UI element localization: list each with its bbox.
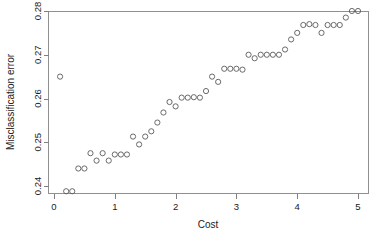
- data-point: [307, 22, 312, 27]
- x-axis-ticks: 012345: [51, 194, 360, 213]
- data-point: [209, 74, 214, 79]
- scatter-plot-figure: 0.240.250.260.270.28 012345 Cost Misclas…: [0, 0, 380, 239]
- y-tick-label: 0.28: [32, 2, 43, 21]
- data-point: [252, 56, 257, 61]
- data-point: [203, 88, 208, 93]
- data-point: [173, 104, 178, 109]
- data-point: [282, 47, 287, 52]
- data-point: [106, 158, 111, 163]
- data-point: [289, 37, 294, 42]
- x-tick-label: 3: [234, 201, 239, 212]
- data-point: [76, 166, 81, 171]
- y-axis-title: Misclassification error: [5, 53, 16, 150]
- data-point: [270, 52, 275, 57]
- data-point: [246, 52, 251, 57]
- data-point: [118, 152, 123, 157]
- data-point: [343, 15, 348, 20]
- plot-frame: [49, 12, 369, 194]
- y-tick-label: 0.24: [32, 177, 43, 196]
- data-point: [197, 95, 202, 100]
- data-point: [319, 30, 324, 35]
- x-tick-label: 1: [112, 201, 117, 212]
- data-points-layer: [57, 8, 360, 193]
- data-point: [331, 22, 336, 27]
- y-tick-label: 0.25: [32, 133, 43, 152]
- data-point: [264, 52, 269, 57]
- y-tick-label: 0.27: [32, 46, 43, 65]
- data-point: [185, 95, 190, 100]
- data-point: [100, 151, 105, 156]
- data-point: [112, 152, 117, 157]
- data-point: [216, 79, 221, 84]
- data-point: [155, 120, 160, 125]
- data-point: [295, 30, 300, 35]
- data-point: [313, 22, 318, 27]
- data-point: [234, 66, 239, 71]
- data-point: [161, 110, 166, 115]
- data-point: [191, 95, 196, 100]
- data-point: [143, 134, 148, 139]
- data-point: [325, 22, 330, 27]
- data-point: [137, 142, 142, 147]
- data-point: [130, 134, 135, 139]
- data-point: [301, 22, 306, 27]
- data-point: [222, 66, 227, 71]
- data-point: [57, 74, 62, 79]
- data-point: [276, 52, 281, 57]
- data-point: [82, 166, 87, 171]
- plot-canvas: 0.240.250.260.270.28 012345 Cost Misclas…: [0, 0, 380, 239]
- data-point: [228, 66, 233, 71]
- data-point: [94, 158, 99, 163]
- data-point: [124, 152, 129, 157]
- data-point: [167, 99, 172, 104]
- x-axis-title: Cost: [198, 219, 219, 230]
- x-tick-label: 0: [51, 201, 56, 212]
- data-point: [149, 129, 154, 134]
- data-point: [240, 67, 245, 72]
- y-tick-label: 0.26: [32, 89, 43, 108]
- data-point: [337, 22, 342, 27]
- y-axis-ticks: 0.240.250.260.270.28: [32, 2, 49, 196]
- x-tick-label: 5: [355, 201, 360, 212]
- data-point: [179, 95, 184, 100]
- data-point: [88, 151, 93, 156]
- x-tick-label: 2: [173, 201, 178, 212]
- x-tick-label: 4: [295, 201, 300, 212]
- data-point: [258, 52, 263, 57]
